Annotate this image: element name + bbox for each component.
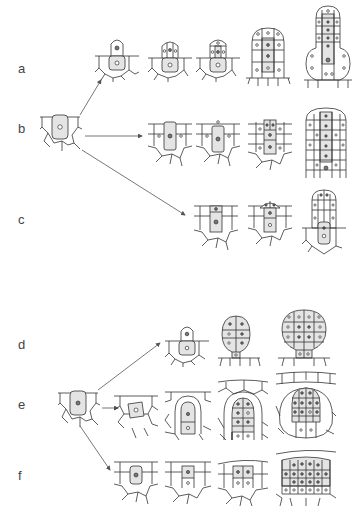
stage-b-4 — [306, 108, 346, 178]
arrow-to-f — [80, 426, 110, 470]
row-label-e: e — [18, 397, 25, 412]
diagram: a b c d e f — [0, 0, 364, 514]
stage-e-3 — [218, 380, 268, 440]
stage-e-2 — [165, 392, 211, 440]
stage-a-1 — [95, 40, 139, 82]
stage-e-4 — [276, 372, 336, 438]
stage-a-3 — [196, 40, 240, 82]
stage-d-1 — [165, 327, 209, 367]
stage-a-4 — [246, 28, 290, 86]
stage-c-1 — [194, 206, 238, 250]
origin-cell-lower — [58, 391, 100, 427]
stage-d-2 — [218, 316, 260, 366]
stage-a-2 — [148, 42, 192, 82]
arrow-to-d — [98, 343, 160, 390]
stage-f-1 — [114, 462, 158, 504]
stage-a-5 — [304, 6, 352, 88]
stage-c-2 — [248, 201, 292, 246]
stage-c-3 — [302, 190, 346, 254]
stage-f-2 — [165, 462, 211, 504]
stage-b-2 — [196, 121, 240, 166]
row-label-b: b — [18, 121, 25, 136]
arrow-to-a — [80, 80, 101, 115]
row-label-c: c — [18, 212, 25, 227]
stage-b-3 — [248, 120, 292, 170]
origin-cell-upper — [40, 115, 82, 151]
stage-b-1 — [148, 122, 192, 166]
row-label-a: a — [18, 61, 26, 76]
stage-e-1 — [114, 396, 158, 438]
stage-f-4 — [276, 450, 336, 506]
stage-f-3 — [218, 460, 268, 506]
row-label-f: f — [18, 468, 22, 483]
stage-d-3 — [278, 310, 330, 366]
arrow-to-c — [82, 150, 185, 215]
row-label-d: d — [18, 337, 25, 352]
